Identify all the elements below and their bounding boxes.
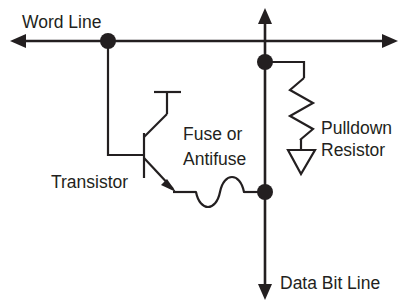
fuse-label-line1: Fuse or xyxy=(183,124,242,144)
base-connection-wire xyxy=(108,41,144,155)
circuit-diagram: Word Line Transistor Fuse or Antifuse Pu… xyxy=(0,0,405,307)
circuit-svg: Word Line Transistor Fuse or Antifuse Pu… xyxy=(0,0,405,307)
transistor-label: Transistor xyxy=(51,172,128,192)
word-line-left-arrowhead xyxy=(10,34,26,48)
pulldown-resistor-zigzag xyxy=(290,78,313,140)
word-line-label: Word Line xyxy=(22,12,101,32)
transistor-collector-lead xyxy=(144,114,167,137)
ground-triangle-icon xyxy=(288,150,315,174)
transistor xyxy=(144,92,181,192)
pulldown-resistor xyxy=(265,62,315,174)
pulldown-label-line1: Pulldown xyxy=(321,118,392,138)
bit-line-fuse-junction-dot xyxy=(257,184,273,200)
word-line-right-arrowhead xyxy=(382,34,398,48)
transistor-emitter-arrowhead xyxy=(161,179,176,192)
word-line-gate-junction-dot xyxy=(100,33,116,49)
data-bit-line-label: Data Bit Line xyxy=(280,273,380,293)
fuse-squiggle-body xyxy=(196,177,244,207)
data-bit-line-top-arrowhead xyxy=(258,8,272,24)
fuse-label-line2: Antifuse xyxy=(183,149,246,169)
fuse-antifuse xyxy=(173,177,266,207)
word-line-to-base-wire xyxy=(108,41,144,155)
data-bit-line-bottom-arrowhead xyxy=(258,284,272,300)
word-line xyxy=(10,34,398,48)
data-bit-line xyxy=(258,8,272,300)
bit-line-resistor-junction-dot xyxy=(257,54,273,70)
pulldown-label-line2: Resistor xyxy=(321,140,385,160)
